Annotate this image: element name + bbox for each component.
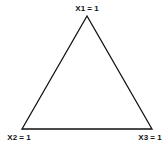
vertex-label-x2: X2 = 1	[7, 133, 31, 142]
triangle-outline	[22, 16, 152, 129]
simplex-triangle-diagram: X1 = 1 X2 = 1 X3 = 1	[0, 0, 166, 148]
vertex-label-x1: X1 = 1	[75, 4, 99, 13]
vertex-label-x3: X3 = 1	[138, 133, 162, 142]
